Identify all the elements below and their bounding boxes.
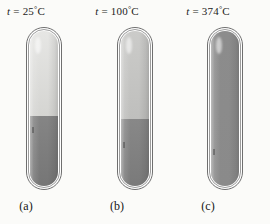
vessel-contents-c bbox=[211, 31, 239, 186]
liquid-phase-c bbox=[211, 31, 239, 186]
temperature-unit-a: C bbox=[37, 5, 45, 17]
vessel-a bbox=[26, 27, 62, 190]
panel-label-b: (b) bbox=[72, 199, 162, 214]
temperature-equals-c: = bbox=[192, 5, 198, 17]
temperature-unit-c: C bbox=[222, 5, 230, 17]
temperature-label-b: t=100°C bbox=[72, 5, 162, 17]
temperature-value-c: 374 bbox=[202, 5, 219, 17]
temperature-label-a: t=25°C bbox=[0, 5, 71, 17]
vessel-contents-b bbox=[121, 31, 149, 186]
temperature-variable-a: t bbox=[7, 5, 10, 17]
temperature-unit-b: C bbox=[131, 5, 139, 17]
vessel-b bbox=[117, 27, 153, 190]
vessel-wall-b bbox=[119, 29, 151, 188]
panel-label-a: (a) bbox=[0, 199, 71, 214]
temperature-value-a: 25 bbox=[23, 5, 34, 17]
vapor-phase-b bbox=[121, 31, 149, 119]
temperature-equals-a: = bbox=[13, 5, 19, 17]
panel-label-c: (c) bbox=[163, 199, 253, 214]
liquid-phase-a bbox=[30, 116, 58, 186]
critical-point-figure: t=25°C (a) t=100°C (b) bbox=[0, 0, 270, 224]
liquid-phase-b bbox=[121, 119, 149, 186]
temperature-variable-c: t bbox=[186, 5, 189, 17]
temperature-label-c: t=374°C bbox=[163, 5, 253, 17]
temperature-value-b: 100 bbox=[111, 5, 128, 17]
temperature-variable-b: t bbox=[95, 5, 98, 17]
vapor-phase-a bbox=[30, 31, 58, 116]
vessel-wall-a bbox=[28, 29, 60, 188]
vessel-wall-c bbox=[209, 29, 241, 188]
vessel-contents-a bbox=[30, 31, 58, 186]
temperature-equals-b: = bbox=[101, 5, 107, 17]
vessel-c bbox=[207, 27, 243, 190]
